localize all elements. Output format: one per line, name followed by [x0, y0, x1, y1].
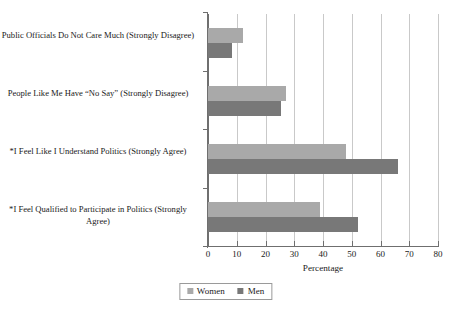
y-axis-tick	[203, 12, 208, 13]
bar-men-0	[208, 43, 232, 58]
x-axis-tick	[237, 241, 238, 247]
bar-group	[208, 72, 438, 130]
x-axis-tick-label: 10	[222, 249, 252, 259]
category-label-1: People Like Me Have “No Say” (Strongly D…	[0, 88, 198, 100]
y-axis-line	[207, 12, 208, 248]
legend-item-women: Women	[187, 286, 225, 296]
x-axis-tick-label: 60	[366, 249, 396, 259]
gridline	[438, 14, 439, 246]
bar-men-2	[208, 159, 398, 174]
x-axis-tick-label: 20	[251, 249, 281, 259]
x-axis-tick	[208, 241, 209, 247]
legend-label-women: Women	[197, 286, 225, 296]
legend-swatch-icon	[238, 288, 244, 294]
bar-women-3	[208, 202, 320, 217]
bar-women-2	[208, 144, 346, 159]
y-axis-tick	[203, 129, 208, 130]
bar-group	[208, 14, 438, 72]
x-axis-tick	[438, 241, 439, 247]
x-axis-tick-label: 30	[279, 249, 309, 259]
y-axis-tick	[203, 71, 208, 72]
x-axis-title: Percentage	[208, 263, 438, 273]
x-axis-tick	[294, 241, 295, 247]
y-axis-tick	[203, 188, 208, 189]
bar-groups	[208, 14, 438, 246]
legend-label-men: Men	[248, 286, 265, 296]
chart-legend: Women Men	[179, 283, 272, 300]
x-axis-tick	[323, 241, 324, 247]
x-axis-tick	[266, 241, 267, 247]
plot-area	[208, 14, 438, 246]
x-axis-tick	[381, 241, 382, 247]
x-axis-tick-label: 70	[394, 249, 424, 259]
bar-men-1	[208, 101, 281, 116]
bar-women-1	[208, 86, 286, 101]
category-label-0: Public Officials Do Not Care Much (Stron…	[0, 30, 198, 42]
bar-group	[208, 188, 438, 246]
x-axis-tick-label: 80	[423, 249, 451, 259]
bar-chart: Public Officials Do Not Care Much (Stron…	[0, 0, 451, 312]
bar-group	[208, 130, 438, 188]
category-label-2: *I Feel Like I Understand Politics (Stro…	[0, 146, 198, 158]
legend-swatch-icon	[187, 288, 193, 294]
category-label-3: *I Feel Qualified to Participate in Poli…	[0, 204, 198, 227]
x-axis-tick	[409, 241, 410, 247]
bar-women-0	[208, 28, 243, 43]
legend-item-men: Men	[238, 286, 265, 296]
category-axis-labels: Public Officials Do Not Care Much (Stron…	[0, 14, 200, 246]
x-axis-tick-label: 50	[337, 249, 367, 259]
x-axis-tick-label: 40	[308, 249, 338, 259]
x-axis-tick	[352, 241, 353, 247]
bar-men-3	[208, 217, 358, 232]
x-axis-tick-label: 0	[193, 249, 223, 259]
